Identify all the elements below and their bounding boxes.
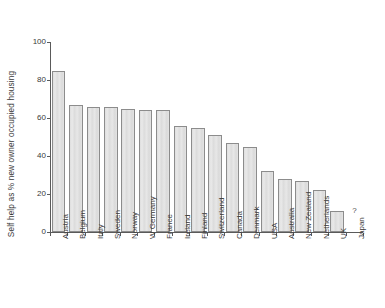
x-axis-category-label: UK: [340, 228, 348, 239]
y-axis-tick-label: 40: [24, 152, 46, 160]
x-axis-category-label: Belgium: [79, 210, 87, 239]
x-axis-category-label: Italy: [97, 224, 105, 239]
y-axis-label: Self help as % new owner occupied housin…: [0, 0, 22, 308]
y-axis-tick-label: 100: [24, 38, 46, 46]
x-axis-category-label: Ireland: [184, 215, 192, 239]
x-axis-category-label: USA: [271, 223, 279, 239]
y-axis-label-text: Self help as % new owner occupied housin…: [7, 71, 16, 237]
x-axis-category-label: Australia: [288, 208, 296, 239]
y-axis-tick-mark: [47, 80, 50, 81]
x-axis-category-label: Netherlands: [323, 196, 331, 239]
y-axis-line: [50, 42, 51, 232]
x-axis-category-label: Finland: [201, 213, 209, 239]
x-axis-category-label: Switzerland: [218, 198, 226, 239]
x-axis-category-label: W Germany: [149, 196, 157, 239]
x-axis-category-label: Austria: [62, 214, 70, 239]
x-axis-category-label: Japan: [358, 217, 366, 239]
x-axis-category-label: Denmark: [253, 207, 261, 239]
y-axis-tick-labels: 020406080100: [22, 0, 46, 308]
y-axis-tick-mark: [47, 194, 50, 195]
y-axis-tick-mark: [47, 118, 50, 119]
y-axis-tick-label: 0: [24, 228, 46, 236]
x-axis-category-label: New Zealand: [305, 192, 313, 239]
x-axis-category-label: Norway: [131, 212, 139, 239]
x-axis-category-label: France: [166, 214, 174, 239]
y-axis-tick-mark: [47, 42, 50, 43]
y-axis-tick-mark: [47, 156, 50, 157]
bar: [52, 71, 66, 233]
japan-missing-data-annotation: ?: [352, 206, 356, 215]
bar: [87, 107, 101, 232]
bar-chart-figure: Self help as % new owner occupied housin…: [0, 0, 385, 308]
y-axis-tick-label: 20: [24, 190, 46, 198]
x-axis-category-label: Canada: [236, 211, 244, 239]
x-axis-category-label: Sweden: [114, 210, 122, 239]
x-axis-tick-mark: [50, 233, 51, 236]
y-axis-tick-label: 60: [24, 114, 46, 122]
y-axis-tick-label: 80: [24, 76, 46, 84]
